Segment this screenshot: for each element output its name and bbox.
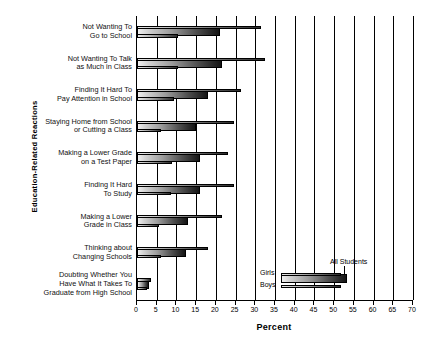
- category-label: Making a LowerGrade in Class: [20, 213, 132, 230]
- x-tick: [175, 300, 176, 305]
- category-label-line: Pay Attention in School: [20, 95, 132, 104]
- x-tick: [156, 300, 157, 305]
- bar-boys: [137, 192, 171, 195]
- bar-girls: [137, 278, 151, 281]
- bar-boys: [137, 66, 178, 69]
- x-axis-title: Percent: [136, 322, 412, 332]
- bar-group: [137, 237, 413, 269]
- x-tick: [274, 300, 275, 305]
- bar-group: [137, 16, 413, 48]
- category-label-line: To Study: [20, 190, 132, 199]
- bar-group: [137, 174, 413, 206]
- x-tick: [215, 300, 216, 305]
- category-label: Finding It Hard ToPay Attention in Schoo…: [20, 86, 132, 103]
- category-label-line: as Much in Class: [20, 63, 132, 72]
- gridline: [413, 16, 414, 300]
- category-label-column: Not Wanting ToGo to SchoolNot Wanting To…: [22, 16, 132, 300]
- bar-boys: [137, 161, 172, 164]
- x-tick: [235, 300, 236, 305]
- bar-boys: [137, 34, 178, 37]
- category-label-line: or Cutting a Class: [20, 126, 132, 135]
- bar-group: [137, 48, 413, 80]
- bar-group: [137, 79, 413, 111]
- bar-chart: Education-Related Reactions Not Wanting …: [0, 0, 422, 353]
- category-label: Making a Lower Gradeon a Test Paper: [20, 149, 132, 166]
- category-label-line: Changing Schools: [20, 253, 132, 262]
- x-tick: [195, 300, 196, 305]
- bar-boys: [137, 287, 147, 290]
- bar-group: [137, 205, 413, 237]
- x-tick: [353, 300, 354, 305]
- bar-group: [137, 268, 413, 300]
- x-tick: [392, 300, 393, 305]
- bar-girls: [137, 247, 208, 250]
- bar-group: [137, 111, 413, 143]
- x-tick: [313, 300, 314, 305]
- bar-boys: [137, 129, 161, 132]
- x-tick: [373, 300, 374, 305]
- category-label: Not Wanting To Talkas Much in Class: [20, 55, 132, 72]
- bar-girls: [137, 58, 265, 61]
- bar-boys: [137, 255, 161, 258]
- bar-boys: [137, 97, 174, 100]
- category-label-line: Grade in Class: [20, 221, 132, 230]
- category-label: Thinking aboutChanging Schools: [20, 244, 132, 261]
- bar-girls: [137, 215, 222, 218]
- x-tick: [333, 300, 334, 305]
- x-tick: [294, 300, 295, 305]
- category-label: Not Wanting ToGo to School: [20, 23, 132, 40]
- category-label: Staying Home from Schoolor Cutting a Cla…: [20, 118, 132, 135]
- category-label: Finding It HardTo Study: [20, 181, 132, 198]
- bar-group: [137, 142, 413, 174]
- category-label-line: Graduate from High School: [20, 289, 132, 298]
- category-label-line: on a Test Paper: [20, 158, 132, 167]
- x-tick: [136, 300, 137, 305]
- bar-girls: [137, 184, 234, 187]
- bar-boys: [137, 224, 159, 227]
- category-label: Doubting Whether YouHave What It Takes T…: [20, 271, 132, 297]
- x-tick: [254, 300, 255, 305]
- bar-girls: [137, 121, 234, 124]
- bar-girls: [137, 26, 261, 29]
- x-tick: [412, 300, 413, 305]
- x-tick-label: 70: [400, 306, 422, 313]
- bar-girls: [137, 152, 228, 155]
- category-label-line: Go to School: [20, 32, 132, 41]
- plot-area: [136, 16, 413, 300]
- bar-girls: [137, 89, 241, 92]
